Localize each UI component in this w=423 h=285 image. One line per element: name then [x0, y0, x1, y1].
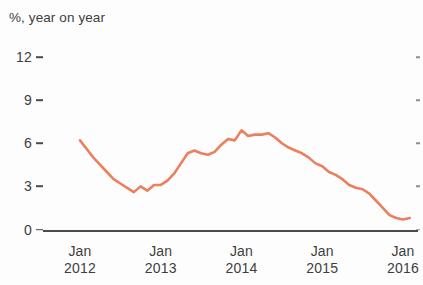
series-line-path: [80, 130, 410, 219]
series-line-chart: [0, 0, 423, 285]
plot-area: 036912 Jan2012Jan2013Jan2014Jan2015Jan20…: [0, 0, 423, 285]
chart-container: %, year on year 036912 Jan2012Jan2013Jan…: [0, 0, 423, 285]
